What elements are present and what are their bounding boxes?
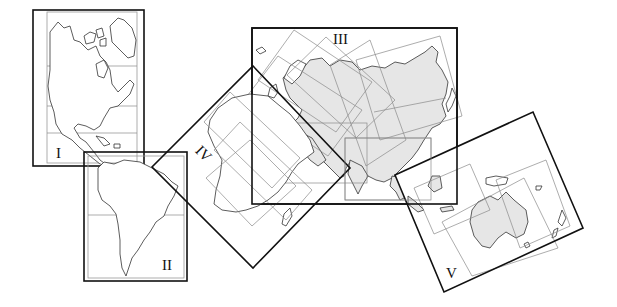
africa-landmass — [208, 94, 314, 212]
label-iii: III — [333, 31, 348, 47]
iceland — [256, 47, 266, 54]
new-guinea — [486, 176, 508, 186]
world-map-index-diagram: III I II IV — [0, 0, 617, 307]
label-i: I — [56, 145, 61, 161]
label-v: V — [446, 265, 457, 281]
section-i-north-america: I — [33, 10, 144, 166]
label-iv: IV — [192, 142, 215, 165]
label-ii: II — [162, 257, 172, 273]
section-ii-south-america: II — [84, 152, 187, 281]
madagascar — [282, 208, 292, 226]
japan — [446, 88, 456, 112]
